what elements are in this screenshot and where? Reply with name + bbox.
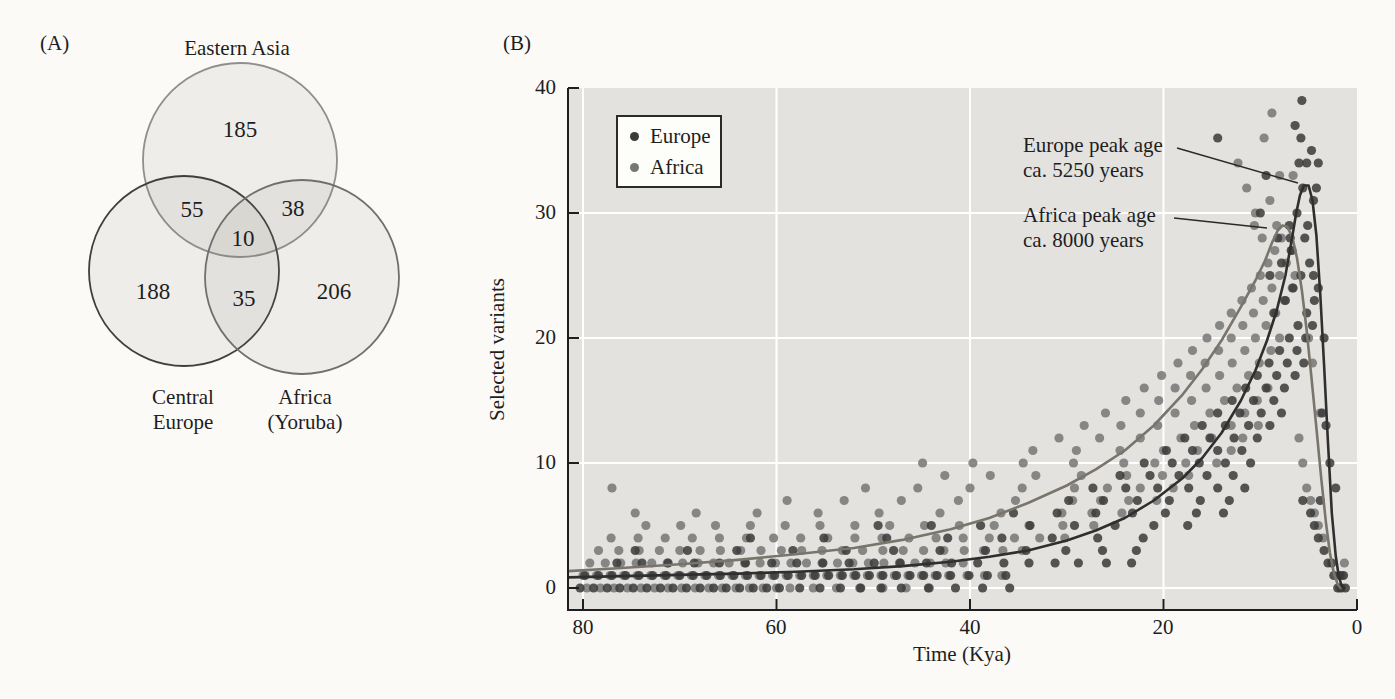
venn-count-all-three: 10 (213, 226, 273, 252)
panel-b-label: (B) (503, 31, 531, 55)
africa-dot-icon (630, 163, 639, 172)
annotation-africa-peak: Africa peak age ca. 8000 years (1023, 203, 1156, 253)
venn-count-easternasia-centraleurope: 55 (162, 197, 222, 223)
legend: Europe Africa (616, 115, 722, 188)
x-axis-title: Time (Kya) (862, 642, 1062, 666)
venn-set-label-eastern-asia: Eastern Asia (147, 36, 327, 60)
venn-count-centraleurope-africa: 35 (214, 286, 274, 312)
annotation-europe-peak-line1: Europe peak age (1023, 133, 1163, 158)
legend-entry-europe: Europe (618, 123, 720, 150)
legend-label-africa: Africa (650, 155, 704, 180)
figure-graphics (0, 0, 1395, 699)
x-tick-80: 80 (553, 615, 613, 639)
legend-entry-africa: Africa (618, 154, 720, 181)
x-tick-60: 60 (746, 615, 806, 639)
venn-count-eastern-asia: 185 (210, 117, 270, 143)
x-tick-20: 20 (1133, 615, 1193, 639)
venn-set-label-africa: Africa (Yoruba) (225, 385, 385, 435)
venn-count-africa: 206 (304, 279, 364, 305)
venn-count-central-europe: 188 (123, 279, 183, 305)
panel-a-label: (A) (40, 31, 69, 55)
annotation-europe-peak-line2: ca. 5250 years (1023, 158, 1163, 183)
y-tick-0: 0 (512, 574, 556, 601)
y-axis-title: Selected variants (484, 255, 511, 445)
annotation-europe-peak: Europe peak age ca. 5250 years (1023, 133, 1163, 183)
y-tick-40: 40 (512, 74, 556, 101)
two-panel-figure: (A) Eastern Asia 185 55 38 10 188 35 206… (0, 0, 1395, 699)
venn-set-label-africa-line1: Africa (225, 385, 385, 410)
y-tick-10: 10 (512, 449, 556, 476)
y-tick-20: 20 (512, 324, 556, 351)
x-tick-0: 0 (1327, 615, 1387, 639)
europe-dot-icon (630, 132, 639, 141)
annotation-africa-peak-line2: ca. 8000 years (1023, 228, 1156, 253)
venn-set-label-africa-line2: (Yoruba) (225, 410, 385, 435)
y-tick-30: 30 (512, 199, 556, 226)
venn-count-easternasia-africa: 38 (263, 196, 323, 222)
venn-circles (89, 63, 399, 374)
annotation-africa-peak-line1: Africa peak age (1023, 203, 1156, 228)
legend-label-europe: Europe (650, 124, 711, 149)
x-tick-40: 40 (940, 615, 1000, 639)
